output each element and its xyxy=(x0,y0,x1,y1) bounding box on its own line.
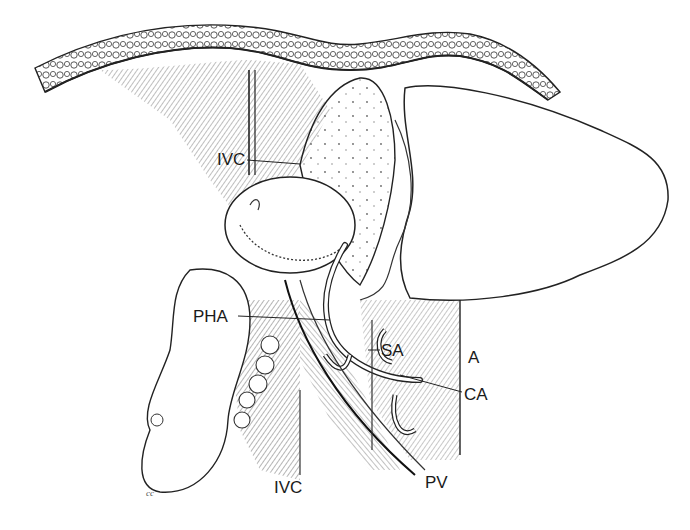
label-ivc-lower: IVC xyxy=(274,479,302,496)
label-pha: PHA xyxy=(193,308,228,325)
label-ivc-upper: IVC xyxy=(217,151,245,168)
label-sa: SA xyxy=(381,342,404,359)
anatomical-illustration xyxy=(0,0,690,530)
label-a: A xyxy=(468,349,479,366)
label-ca: CA xyxy=(464,386,488,403)
artist-signature: cc xyxy=(146,488,154,498)
label-pv: PV xyxy=(425,474,448,491)
stomach xyxy=(360,86,668,300)
